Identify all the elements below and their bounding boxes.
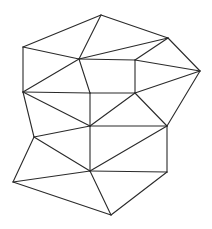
triangulated-mesh-diagram xyxy=(0,0,212,229)
